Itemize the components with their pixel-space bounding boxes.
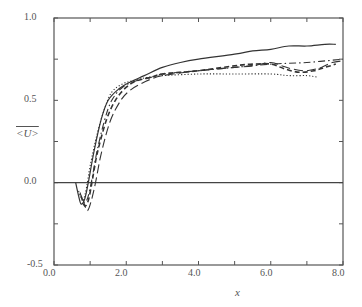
series-solid: [76, 44, 336, 204]
y-axis-label: <U>: [16, 127, 39, 139]
data-series: [76, 44, 343, 211]
axes-box: [54, 18, 343, 265]
plot-frame: [54, 18, 343, 265]
xtick-label-0: 0.0: [43, 267, 56, 278]
xtick-label-8: 8.0: [332, 267, 345, 278]
line-chart: [0, 0, 362, 307]
axis-ticks: [54, 18, 343, 265]
series-long-dash: [83, 61, 343, 211]
xtick-label-2: 2.0: [115, 267, 128, 278]
ytick-label-0.5: 0.5: [24, 93, 37, 104]
ytick-label-0: 0.0: [24, 175, 37, 186]
series-medium-dash: [81, 64, 336, 206]
x-axis-label: x: [235, 286, 240, 298]
xtick-label-6: 6.0: [260, 267, 273, 278]
xtick-label-4: 4.0: [188, 267, 201, 278]
ytick-label-1: 1.0: [24, 11, 37, 22]
series-dash-dot: [80, 59, 343, 203]
ytick-label-neg0.5: -0.5: [27, 258, 43, 269]
